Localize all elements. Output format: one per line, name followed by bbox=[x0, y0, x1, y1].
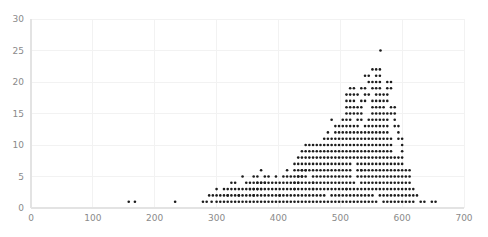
gridlines-group bbox=[31, 19, 464, 208]
data-point bbox=[293, 188, 296, 191]
data-point bbox=[360, 194, 363, 197]
data-point bbox=[397, 163, 400, 166]
data-point bbox=[356, 175, 359, 178]
data-point bbox=[408, 200, 411, 203]
data-point bbox=[367, 150, 370, 153]
data-point bbox=[382, 175, 385, 178]
data-point bbox=[382, 106, 385, 109]
data-point bbox=[397, 175, 400, 178]
data-point bbox=[371, 182, 374, 185]
data-point bbox=[360, 163, 363, 166]
data-point bbox=[379, 144, 382, 147]
data-point bbox=[364, 182, 367, 185]
data-point bbox=[319, 200, 322, 203]
data-point bbox=[319, 150, 322, 153]
data-point bbox=[330, 156, 333, 159]
data-point bbox=[345, 131, 348, 134]
data-point bbox=[379, 156, 382, 159]
data-point bbox=[386, 119, 389, 122]
data-point bbox=[382, 150, 385, 153]
data-point bbox=[375, 175, 378, 178]
data-point bbox=[356, 169, 359, 172]
data-point bbox=[349, 144, 352, 147]
data-point bbox=[375, 137, 378, 140]
data-point bbox=[356, 200, 359, 203]
data-point bbox=[323, 169, 326, 172]
data-point bbox=[371, 112, 374, 115]
data-point bbox=[375, 106, 378, 109]
data-point bbox=[341, 169, 344, 172]
data-point bbox=[360, 188, 363, 191]
data-point bbox=[379, 169, 382, 172]
data-point bbox=[379, 163, 382, 166]
data-point bbox=[341, 144, 344, 147]
data-point bbox=[327, 182, 330, 185]
data-point bbox=[382, 137, 385, 140]
data-point bbox=[367, 175, 370, 178]
data-point bbox=[345, 169, 348, 172]
data-point bbox=[382, 169, 385, 172]
data-point bbox=[379, 93, 382, 96]
data-point bbox=[401, 156, 404, 159]
data-point bbox=[338, 194, 341, 197]
x-tick-label: 600 bbox=[394, 213, 411, 223]
data-point bbox=[312, 163, 315, 166]
data-point bbox=[334, 194, 337, 197]
data-point bbox=[330, 169, 333, 172]
data-point bbox=[371, 131, 374, 134]
data-point bbox=[290, 175, 293, 178]
y-tick-label: 15 bbox=[13, 109, 24, 119]
data-point bbox=[341, 125, 344, 128]
data-point bbox=[349, 156, 352, 159]
data-point bbox=[356, 93, 359, 96]
data-point bbox=[360, 200, 363, 203]
data-point bbox=[238, 188, 241, 191]
data-point bbox=[345, 106, 348, 109]
data-point bbox=[397, 131, 400, 134]
data-point bbox=[315, 175, 318, 178]
data-point bbox=[312, 144, 315, 147]
data-point bbox=[353, 125, 356, 128]
data-point bbox=[371, 100, 374, 103]
data-point bbox=[330, 144, 333, 147]
data-point bbox=[312, 182, 315, 185]
data-point bbox=[379, 119, 382, 122]
data-point bbox=[349, 106, 352, 109]
data-point bbox=[275, 200, 278, 203]
data-point bbox=[364, 100, 367, 103]
data-point bbox=[334, 125, 337, 128]
data-point bbox=[405, 175, 408, 178]
data-point bbox=[345, 182, 348, 185]
data-point bbox=[353, 144, 356, 147]
data-point bbox=[341, 156, 344, 159]
data-point bbox=[382, 125, 385, 128]
data-point bbox=[286, 182, 289, 185]
data-point bbox=[401, 144, 404, 147]
data-point bbox=[215, 194, 218, 197]
data-point bbox=[308, 156, 311, 159]
data-point bbox=[334, 182, 337, 185]
data-point bbox=[393, 112, 396, 115]
data-point bbox=[375, 87, 378, 90]
data-point bbox=[293, 194, 296, 197]
data-point bbox=[323, 200, 326, 203]
data-point bbox=[234, 188, 237, 191]
data-point bbox=[286, 200, 289, 203]
data-point bbox=[386, 125, 389, 128]
data-point bbox=[256, 194, 259, 197]
data-point bbox=[304, 156, 307, 159]
y-tick-label: 25 bbox=[13, 46, 24, 56]
data-point bbox=[371, 137, 374, 140]
data-point bbox=[379, 112, 382, 115]
data-point bbox=[405, 188, 408, 191]
data-point bbox=[412, 194, 415, 197]
data-point bbox=[308, 200, 311, 203]
data-point bbox=[356, 163, 359, 166]
data-point bbox=[241, 194, 244, 197]
data-point bbox=[386, 150, 389, 153]
data-point bbox=[393, 188, 396, 191]
data-point bbox=[241, 188, 244, 191]
data-point bbox=[390, 175, 393, 178]
data-point bbox=[319, 156, 322, 159]
data-point bbox=[375, 169, 378, 172]
